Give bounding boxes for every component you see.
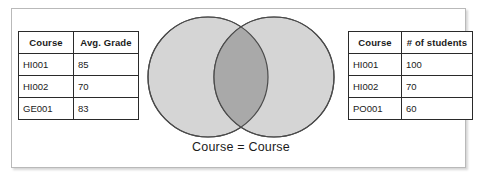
cell-avg-grade: 85 [74,54,139,76]
cell-course: HI001 [19,54,74,76]
cell-num-students: 60 [402,98,473,120]
right-course-students-table: Course # of students HI001 100 HI002 70 … [348,31,473,120]
table-row: PO001 60 [349,98,473,120]
cell-course: HI002 [19,76,74,98]
column-header-avg-grade: Avg. Grade [74,32,139,54]
left-course-grade-table: Course Avg. Grade HI001 85 HI002 70 GE00… [18,31,139,120]
table-row: HI001 100 [349,54,473,76]
table-row: HI002 70 [19,76,139,98]
join-venn-figure: Course Avg. Grade HI001 85 HI002 70 GE00… [0,0,479,178]
table-row: HI001 85 [19,54,139,76]
table-row: GE001 83 [19,98,139,120]
cell-avg-grade: 70 [74,76,139,98]
join-condition-caption: Course = Course [146,141,336,154]
cell-course: PO001 [349,98,402,120]
cell-num-students: 70 [402,76,473,98]
column-header-course: Course [19,32,74,54]
cell-num-students: 100 [402,54,473,76]
column-header-num-students: # of students [402,32,473,54]
venn-diagram [146,15,336,139]
cell-course: HI001 [349,54,402,76]
cell-avg-grade: 83 [74,98,139,120]
table-header-row: Course Avg. Grade [19,32,139,54]
cell-course: GE001 [19,98,74,120]
column-header-course: Course [349,32,402,54]
table-row: HI002 70 [349,76,473,98]
table-header-row: Course # of students [349,32,473,54]
cell-course: HI002 [349,76,402,98]
